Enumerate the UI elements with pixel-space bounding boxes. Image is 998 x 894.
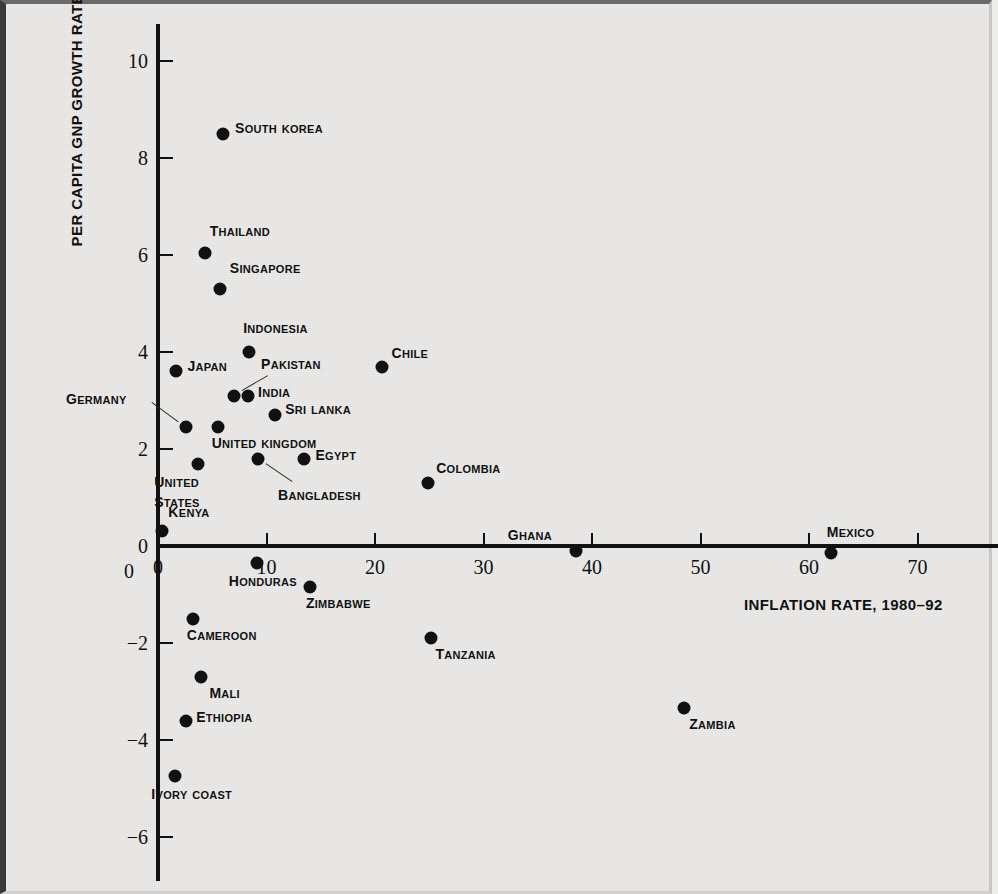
- origin-label: 0: [124, 560, 134, 583]
- data-point: [569, 544, 582, 557]
- y-tick: [160, 642, 173, 644]
- y-tick-label: 8: [102, 147, 148, 170]
- x-tick-label: 70: [908, 556, 928, 579]
- x-tick-label: 60: [799, 556, 819, 579]
- data-point: [180, 421, 193, 434]
- x-axis-title: INFLATION RATE, 1980–92: [744, 596, 943, 613]
- data-point: [217, 127, 230, 140]
- data-point-label: Cameroon: [187, 622, 257, 645]
- data-point-label: Singapore: [230, 255, 301, 278]
- data-point-label: Egypt: [315, 442, 356, 465]
- y-tick: [160, 60, 173, 62]
- data-point: [156, 525, 169, 538]
- label-leader-line: [265, 463, 292, 482]
- x-tick: [917, 533, 919, 544]
- data-point-label: Mali: [209, 680, 240, 703]
- x-tick: [483, 533, 485, 544]
- y-tick: [160, 448, 173, 450]
- y-tick-label: 4: [102, 341, 148, 364]
- x-tick-label: 50: [691, 556, 711, 579]
- data-point-label: Pakistan: [261, 351, 321, 374]
- data-point-label-line: United: [154, 470, 200, 490]
- data-point-label: Kenya: [168, 499, 209, 522]
- data-point: [243, 346, 256, 359]
- x-tick: [374, 533, 376, 544]
- data-point-label: South Korea: [235, 115, 323, 138]
- data-point: [170, 365, 183, 378]
- data-point-label: Ethiopia: [196, 704, 252, 727]
- x-tick-label: 20: [365, 556, 385, 579]
- y-tick-label: −4: [102, 729, 148, 752]
- y-tick: [160, 836, 173, 838]
- data-point-label: Sri Lanka: [285, 396, 351, 419]
- y-tick-label: −6: [102, 826, 148, 849]
- data-point: [824, 547, 837, 560]
- x-tick: [700, 533, 702, 544]
- data-point: [180, 714, 193, 727]
- y-tick-label: 2: [102, 438, 148, 461]
- data-point: [242, 389, 255, 402]
- data-point: [227, 389, 240, 402]
- x-tick-label: 40: [582, 556, 602, 579]
- data-point-label: Indonesia: [243, 315, 308, 338]
- y-axis-line: [156, 24, 160, 881]
- data-point: [195, 670, 208, 683]
- data-point-label: Zambia: [689, 711, 735, 734]
- y-tick: [160, 254, 173, 256]
- x-tick: [808, 533, 810, 544]
- y-tick: [160, 351, 173, 353]
- data-point-label: Bangladesh: [278, 482, 361, 505]
- y-tick-label: 0: [102, 535, 148, 558]
- y-tick-label: −2: [102, 632, 148, 655]
- data-point-label: Honduras: [229, 568, 297, 591]
- data-point-label: United Kingdom: [212, 430, 317, 453]
- data-point: [251, 452, 264, 465]
- data-point: [422, 476, 435, 489]
- data-point-label: Chile: [392, 340, 429, 363]
- x-tick-label: 0: [153, 556, 163, 579]
- data-point-label: Zimbabwe: [306, 590, 371, 613]
- data-point-label: Mexico: [827, 519, 875, 542]
- data-point: [298, 452, 311, 465]
- data-point-label: Japan: [187, 353, 227, 376]
- x-tick-label: 30: [474, 556, 494, 579]
- data-point-label: Thailand: [210, 218, 270, 241]
- data-point: [192, 457, 205, 470]
- data-point: [213, 282, 226, 295]
- data-point-label: Germany: [66, 386, 127, 409]
- y-axis-title: PER CAPITA GNP GROWTH RATE, 1980–92: [68, 16, 87, 246]
- x-tick: [591, 533, 593, 544]
- plot-area: 010203040506070−6−4−202468100 South Kore…: [6, 4, 989, 891]
- x-tick: [266, 533, 268, 544]
- y-tick: [160, 157, 173, 159]
- y-tick-label: 10: [102, 50, 148, 73]
- data-point: [269, 409, 282, 422]
- data-point-label: Colombia: [436, 455, 500, 478]
- y-tick-label: 6: [102, 244, 148, 267]
- data-point-label: Tanzania: [435, 641, 495, 664]
- y-tick: [160, 739, 173, 741]
- data-point: [198, 246, 211, 259]
- data-point-label: Ivory Coast: [151, 781, 232, 804]
- data-point: [375, 360, 388, 373]
- data-point-label: Ghana: [508, 522, 552, 545]
